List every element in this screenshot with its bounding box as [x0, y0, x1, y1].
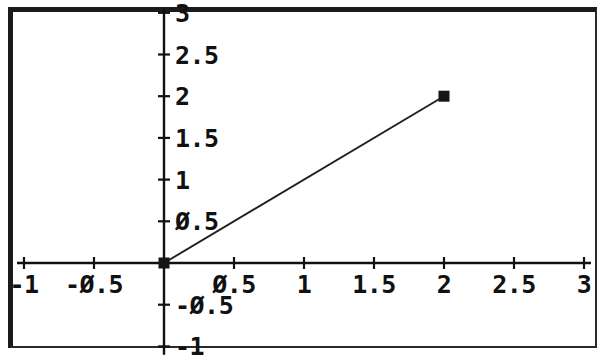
- x-axis-tick-label: 2: [437, 272, 452, 297]
- x-axis-tick-label: 2.5: [492, 272, 536, 297]
- data-point-marker[interactable]: [439, 91, 450, 102]
- x-axis-tick-label: -1: [9, 272, 38, 297]
- plot-canvas: [0, 0, 610, 361]
- x-axis-tick-label: 1: [297, 272, 312, 297]
- y-axis-tick-label: 3: [175, 0, 190, 25]
- plot-area: -1-Ø.5Ø.511.522.53-1-Ø.5Ø.511.522.53: [0, 0, 610, 361]
- x-axis-tick-label: -Ø.5: [65, 272, 123, 297]
- y-axis-tick-label: 2: [175, 84, 190, 109]
- data-point-marker[interactable]: [159, 258, 170, 269]
- y-axis-tick-label: -Ø.5: [175, 292, 233, 317]
- y-axis-tick-label: 1: [175, 167, 190, 192]
- y-axis-tick-label: 2.5: [175, 42, 219, 67]
- chart-screenshot: -1-Ø.5Ø.511.522.53-1-Ø.5Ø.511.522.53: [0, 0, 610, 361]
- x-axis-tick-label: 3: [577, 272, 592, 297]
- data-line-segment: [164, 96, 444, 263]
- x-axis-tick-label: 1.5: [352, 272, 396, 297]
- y-axis-tick-label: -1: [175, 334, 204, 359]
- y-axis-tick-label: Ø.5: [175, 209, 219, 234]
- y-axis-tick-label: 1.5: [175, 125, 219, 150]
